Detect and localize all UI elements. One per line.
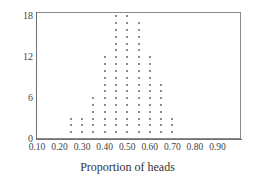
data-point <box>138 56 140 58</box>
plot-area <box>37 13 240 139</box>
data-point <box>149 131 151 133</box>
data-point <box>138 90 140 92</box>
data-point <box>171 131 173 133</box>
data-point <box>149 118 151 120</box>
data-point <box>115 97 117 99</box>
data-point <box>81 131 83 133</box>
data-point <box>160 104 162 106</box>
data-point <box>126 124 128 126</box>
y-axis-tick-label: 6 <box>3 93 33 103</box>
y-axis-tick-label: 18 <box>3 11 33 21</box>
data-point <box>115 36 117 38</box>
data-point <box>126 77 128 79</box>
data-point <box>92 124 94 126</box>
data-point <box>160 118 162 120</box>
data-point <box>70 118 72 120</box>
data-point <box>104 90 106 92</box>
data-point <box>115 63 117 65</box>
data-point <box>138 77 140 79</box>
data-point <box>138 49 140 51</box>
data-point <box>138 104 140 106</box>
data-point <box>104 97 106 99</box>
x-axis-tick-labels: 0.100.200.300.400.500.600.700.800.90 <box>0 141 255 155</box>
x-axis-line <box>36 139 242 140</box>
data-point <box>104 118 106 120</box>
data-point <box>92 97 94 99</box>
x-axis-tick-label: 0.90 <box>200 141 234 153</box>
data-point <box>138 97 140 99</box>
data-point <box>104 77 106 79</box>
dotplot-chart: 061218 0.100.200.300.400.500.600.700.800… <box>0 0 255 185</box>
data-point <box>115 131 117 133</box>
data-point <box>70 131 72 133</box>
data-point <box>160 90 162 92</box>
data-point <box>126 70 128 72</box>
data-point <box>92 131 94 133</box>
data-point <box>126 49 128 51</box>
data-point <box>160 124 162 126</box>
data-point <box>138 111 140 113</box>
data-point <box>149 111 151 113</box>
data-point <box>81 124 83 126</box>
data-point <box>149 104 151 106</box>
data-point <box>115 118 117 120</box>
data-point <box>104 124 106 126</box>
data-point <box>126 22 128 24</box>
data-point <box>115 43 117 45</box>
data-point <box>126 111 128 113</box>
data-point <box>104 70 106 72</box>
data-point <box>160 111 162 113</box>
data-point <box>115 104 117 106</box>
data-point <box>92 118 94 120</box>
data-point <box>138 36 140 38</box>
data-point <box>115 84 117 86</box>
data-point <box>115 56 117 58</box>
data-point <box>126 104 128 106</box>
data-point <box>138 118 140 120</box>
data-point <box>149 77 151 79</box>
data-point <box>149 56 151 58</box>
data-point <box>126 56 128 58</box>
data-point <box>81 118 83 120</box>
data-point <box>115 49 117 51</box>
data-point <box>115 111 117 113</box>
data-point <box>149 90 151 92</box>
data-point <box>138 84 140 86</box>
data-point <box>149 63 151 65</box>
data-point <box>115 22 117 24</box>
data-point <box>126 131 128 133</box>
data-point <box>104 131 106 133</box>
data-point <box>138 63 140 65</box>
data-point <box>104 56 106 58</box>
data-point <box>104 84 106 86</box>
data-point <box>171 118 173 120</box>
data-point <box>138 131 140 133</box>
data-point <box>149 70 151 72</box>
data-point <box>92 111 94 113</box>
data-point <box>138 124 140 126</box>
data-point <box>171 124 173 126</box>
data-point <box>104 111 106 113</box>
data-point <box>126 15 128 17</box>
data-point <box>149 97 151 99</box>
data-point <box>115 124 117 126</box>
data-point <box>149 124 151 126</box>
data-point <box>149 84 151 86</box>
data-point <box>126 97 128 99</box>
data-point <box>126 90 128 92</box>
data-point <box>138 70 140 72</box>
data-point <box>115 15 117 17</box>
data-point <box>104 63 106 65</box>
data-point <box>126 63 128 65</box>
data-point <box>92 104 94 106</box>
data-point <box>115 29 117 31</box>
data-point <box>138 22 140 24</box>
data-point <box>138 29 140 31</box>
y-axis-tick-labels: 061218 <box>0 0 33 185</box>
data-point <box>115 77 117 79</box>
data-point <box>70 124 72 126</box>
data-point <box>126 43 128 45</box>
data-point <box>126 29 128 31</box>
y-axis-tick-label: 12 <box>3 52 33 62</box>
data-point <box>115 70 117 72</box>
